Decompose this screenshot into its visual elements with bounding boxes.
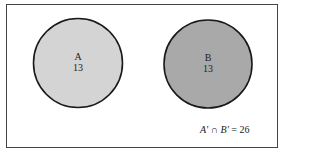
complement-intersection-formula: A′ ∩ B′ = 26 — [200, 124, 249, 135]
set-b-count: 13 — [193, 63, 223, 74]
complement-count: = 26 — [231, 124, 249, 135]
complement-a: A′ — [200, 124, 208, 135]
set-b-label: B 13 — [193, 52, 223, 74]
set-a-count: 13 — [63, 62, 93, 73]
complement-b: B′ — [221, 124, 229, 135]
set-a-name: A — [63, 51, 93, 62]
set-b-name: B — [193, 52, 223, 63]
intersection-symbol: ∩ — [211, 124, 218, 135]
set-a-label: A 13 — [63, 51, 93, 73]
